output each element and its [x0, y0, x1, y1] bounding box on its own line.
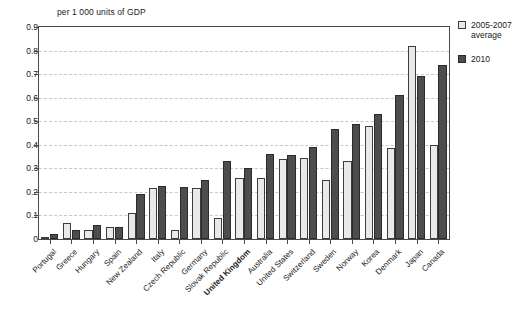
chart-axis-title: per 1 000 units of GDP	[57, 7, 146, 17]
bar	[300, 158, 308, 239]
y-axis-tick-mark	[34, 74, 39, 75]
bar	[438, 65, 446, 239]
x-axis-tick-mark	[330, 240, 331, 244]
bar	[149, 188, 157, 239]
x-axis-tick-mark	[417, 240, 418, 244]
bar	[287, 155, 295, 239]
bar	[223, 161, 231, 239]
legend-label: 2010	[471, 54, 522, 64]
y-axis-tick-mark	[34, 192, 39, 193]
bar	[180, 187, 188, 239]
bar	[192, 188, 200, 239]
bar	[417, 76, 425, 239]
legend-item: 2010	[458, 54, 522, 64]
bar-group	[82, 27, 104, 239]
bar-group	[255, 27, 277, 239]
y-axis-tick-mark	[34, 168, 39, 169]
x-axis-tick-mark	[352, 240, 353, 244]
bar-group	[298, 27, 320, 239]
bar-group	[147, 27, 169, 239]
bar-group	[61, 27, 83, 239]
x-axis-tick-mark	[222, 240, 223, 244]
x-axis-tick-mark	[373, 240, 374, 244]
bar	[309, 147, 317, 239]
bar-group	[212, 27, 234, 239]
x-axis-tick-mark	[158, 240, 159, 244]
y-axis-tick-mark	[34, 215, 39, 216]
legend-label: 2005-2007	[471, 20, 522, 30]
bar-group	[406, 27, 428, 239]
bar-group	[190, 27, 212, 239]
x-axis-tick-mark	[309, 240, 310, 244]
x-axis-tick-mark	[395, 240, 396, 244]
bar	[266, 154, 274, 239]
bar	[408, 46, 416, 239]
legend-swatch	[458, 55, 466, 63]
legend-label-line2: average	[471, 30, 522, 40]
x-axis-tick-mark	[50, 240, 51, 244]
x-axis-tick-mark	[201, 240, 202, 244]
bar-group	[168, 27, 190, 239]
chart-legend: 2005-2007average2010	[458, 20, 522, 78]
x-axis-tick-mark	[71, 240, 72, 244]
bar	[395, 95, 403, 239]
x-axis-tick-mark	[287, 240, 288, 244]
bar	[201, 180, 209, 239]
x-axis-tick-mark	[93, 240, 94, 244]
x-axis-tick-mark	[179, 240, 180, 244]
legend-swatch	[458, 21, 466, 29]
bar-group	[276, 27, 298, 239]
bar-group	[39, 27, 61, 239]
bar	[136, 194, 144, 239]
bar	[93, 225, 101, 239]
bar-group	[125, 27, 147, 239]
legend-item: 2005-2007average	[458, 20, 522, 40]
bar	[322, 180, 330, 239]
bar	[257, 178, 265, 239]
x-axis-tick-mark	[438, 240, 439, 244]
bar	[214, 218, 222, 239]
bar-group	[384, 27, 406, 239]
bar-group	[341, 27, 363, 239]
bar	[115, 227, 123, 239]
bar-group	[363, 27, 385, 239]
bar-group	[427, 27, 449, 239]
bars-layer	[39, 27, 449, 239]
y-axis-tick-mark	[34, 121, 39, 122]
bar	[84, 230, 92, 239]
bar	[387, 148, 395, 239]
bar	[343, 161, 351, 239]
bar	[63, 223, 71, 239]
bar	[235, 178, 243, 239]
y-axis-tick-mark	[34, 145, 39, 146]
bar-group	[233, 27, 255, 239]
x-axis-tick-mark	[115, 240, 116, 244]
y-axis-tick-label: 0	[6, 234, 38, 244]
bar	[331, 129, 339, 239]
bar	[374, 114, 382, 239]
bar	[72, 230, 80, 239]
x-axis-tick-mark	[266, 240, 267, 244]
x-axis-tick-mark	[136, 240, 137, 244]
x-axis-tick-mark	[244, 240, 245, 244]
bar-group	[104, 27, 126, 239]
y-axis-tick-mark	[34, 98, 39, 99]
bar	[279, 159, 287, 239]
bar	[50, 234, 58, 239]
bar	[352, 124, 360, 239]
bar	[41, 237, 49, 239]
bar	[171, 230, 179, 239]
y-axis-tick-mark	[34, 27, 39, 28]
bar	[158, 186, 166, 239]
bar	[430, 145, 438, 239]
bar	[128, 213, 136, 239]
bar	[244, 168, 252, 239]
bar-group	[320, 27, 342, 239]
bar	[106, 227, 114, 239]
y-axis-tick-mark	[34, 51, 39, 52]
bar-chart: per 1 000 units of GDP 00.10.20.30.40.50…	[0, 0, 524, 313]
bar	[365, 126, 373, 239]
